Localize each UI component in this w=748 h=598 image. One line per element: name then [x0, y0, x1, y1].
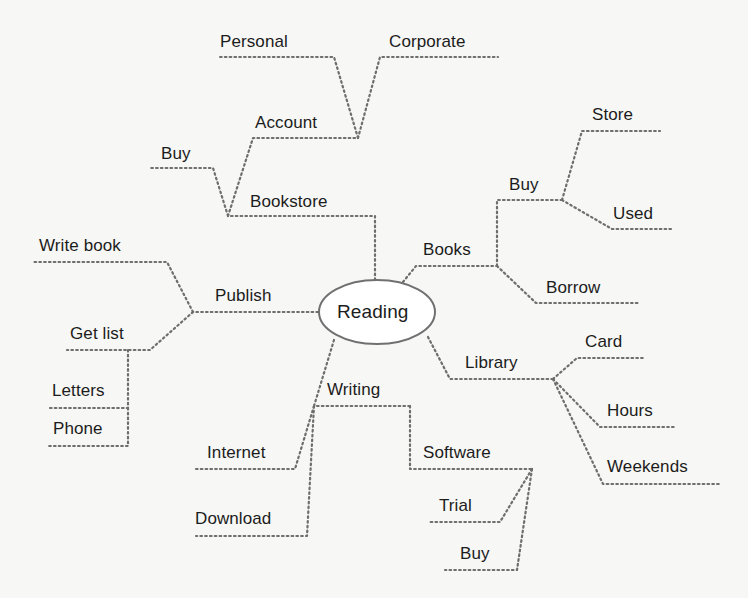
node-books[interactable]: Books	[423, 240, 471, 260]
edge-library-card	[553, 358, 645, 379]
connector-lines	[0, 0, 748, 598]
node-corporate[interactable]: Corporate	[389, 32, 466, 52]
node-bookstore[interactable]: Bookstore	[250, 192, 327, 212]
node-personal[interactable]: Personal	[220, 32, 288, 52]
node-account[interactable]: Account	[255, 113, 317, 133]
edge-reading-bookstore	[228, 216, 375, 280]
node-phone[interactable]: Phone	[53, 419, 103, 439]
edge-bookstore-buy	[150, 168, 228, 216]
node-trial[interactable]: Trial	[439, 496, 472, 516]
node-reading[interactable]: Reading	[337, 302, 408, 322]
node-get-list[interactable]: Get list	[70, 324, 124, 344]
node-hours[interactable]: Hours	[607, 401, 653, 421]
node-write-book[interactable]: Write book	[39, 236, 121, 256]
edge-publish-writebook	[32, 262, 193, 312]
node-used[interactable]: Used	[613, 204, 653, 224]
node-internet[interactable]: Internet	[207, 443, 265, 463]
node-store[interactable]: Store	[592, 105, 633, 125]
node-letters[interactable]: Letters	[52, 381, 105, 401]
node-publish[interactable]: Publish	[215, 286, 271, 306]
edge-books-buy	[497, 200, 562, 266]
node-borrow[interactable]: Borrow	[546, 278, 600, 298]
edge-account-corporate	[358, 57, 498, 138]
node-software[interactable]: Software	[423, 443, 491, 463]
mind-map-diagram: Reading Bookstore Buy Account Personal C…	[0, 0, 748, 598]
node-download[interactable]: Download	[195, 509, 271, 529]
edge-reading-books	[403, 266, 497, 282]
node-bookstore-buy[interactable]: Buy	[161, 144, 191, 164]
node-card[interactable]: Card	[585, 332, 622, 352]
node-writing[interactable]: Writing	[327, 380, 380, 400]
node-books-buy[interactable]: Buy	[509, 175, 539, 195]
edge-buy-store	[562, 131, 660, 200]
node-weekends[interactable]: Weekends	[607, 457, 688, 477]
node-software-buy[interactable]: Buy	[460, 544, 490, 564]
node-library[interactable]: Library	[465, 353, 518, 373]
